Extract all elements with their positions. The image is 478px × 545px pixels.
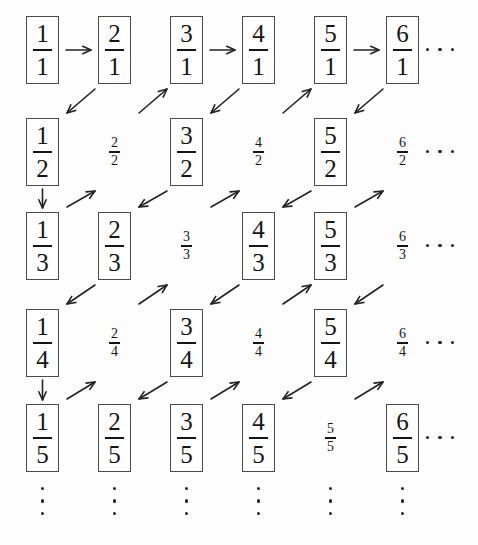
arrow-diag-up-right-6-5-to-6-4 <box>355 382 383 399</box>
arrow-down-1-2-to-1-3 <box>39 189 46 208</box>
arrow-diag-down-left-5-2-to-4-3 <box>283 191 311 207</box>
arrow-diag-down-left-2-1-to-1-2 <box>67 89 95 113</box>
arrow-diag-up-right-4-5-to-4-4 <box>211 382 239 399</box>
arrow-diag-up-right-2-5-to-2-4 <box>67 382 95 399</box>
arrow-diag-up-right-4-3-to-4-2 <box>211 191 239 207</box>
arrow-diag-up-right-2-3-to-2-2 <box>67 191 95 207</box>
arrow-diag-up-right-1-2-to-3-1 <box>139 89 167 113</box>
arrow-down-1-4-to-1-5 <box>39 380 46 400</box>
arrow-diag-down-left-6-3-to-5-4 <box>355 285 383 304</box>
arrow-right-5-1-to-6-1 <box>354 46 379 53</box>
arrow-diag-up-right-4-2-to-5-1 <box>283 89 311 113</box>
arrow-right-1-1-to-2-1 <box>66 46 91 53</box>
arrow-diag-up-right-6-3-to-6-2 <box>355 191 383 207</box>
arrow-diag-down-left-5-4-to-4-5 <box>283 382 311 399</box>
arrow-diag-up-right-2-4-to-3-3 <box>139 285 167 304</box>
arrow-diag-down-left-3-4-to-2-5 <box>139 382 167 399</box>
arrow-diag-down-left-3-2-to-2-3 <box>139 191 167 207</box>
arrow-diag-down-left-6-1-to-5-2 <box>355 89 383 113</box>
arrow-layer <box>0 0 478 545</box>
rationals-enumeration-figure: 1121314151611222324252621323334353631424… <box>0 0 478 545</box>
arrow-diag-down-left-2-3-to-1-4 <box>67 285 95 304</box>
arrow-diag-up-right-4-4-to-5-3 <box>283 285 311 304</box>
arrow-right-3-1-to-4-1 <box>210 46 235 53</box>
arrow-diag-down-left-4-1-to-3-2 <box>211 89 239 113</box>
arrow-diag-down-left-4-3-to-3-4 <box>211 285 239 304</box>
